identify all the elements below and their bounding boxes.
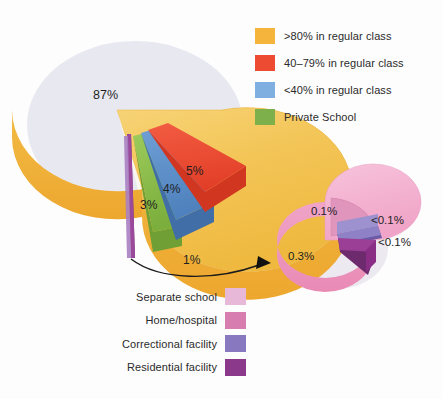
label-detail-lt01-a: <0.1%	[371, 214, 404, 226]
arrow-head-icon	[256, 256, 271, 269]
label-main-87: 87%	[93, 88, 118, 102]
legend-swatch-40to79	[255, 55, 275, 71]
legend-swatch-separate-school	[225, 288, 246, 305]
legend-item-home-hospital[interactable]: Home/hospital	[122, 311, 246, 330]
label-detail-01: 0.1%	[311, 205, 337, 217]
label-detail-lt01-b: <0.1%	[378, 236, 411, 248]
legend-main: >80% in regular class 40–79% in regular …	[255, 26, 404, 134]
chart-canvas: 87% 5% 4% 3% 1% 0.1% 0.3% <0.1% <0.1% >8…	[0, 0, 443, 399]
legend-label-40to79: 40–79% in regular class	[284, 57, 404, 69]
label-main-4: 4%	[163, 182, 180, 196]
legend-item-correctional-facility[interactable]: Correctional facility	[122, 334, 246, 353]
label-detail-03: 0.3%	[288, 250, 314, 262]
legend-item-residential-facility[interactable]: Residential facility	[122, 358, 246, 377]
legend-item-40to79[interactable]: 40–79% in regular class	[255, 53, 404, 73]
legend-label-over80: >80% in regular class	[284, 30, 392, 42]
legend-item-private-school[interactable]: Private School	[255, 107, 404, 127]
legend-item-under40[interactable]: <40% in regular class	[255, 80, 404, 100]
legend-item-over80[interactable]: >80% in regular class	[255, 26, 404, 46]
legend-swatch-private-school	[255, 109, 275, 125]
legend-swatch-under40	[255, 82, 275, 98]
legend-label-under40: <40% in regular class	[284, 84, 392, 96]
label-main-3: 3%	[140, 198, 157, 212]
legend-swatch-home-hospital	[225, 312, 246, 329]
legend-label-correctional-facility: Correctional facility	[122, 338, 217, 350]
label-main-5: 5%	[186, 164, 203, 178]
legend-item-separate-school[interactable]: Separate school	[122, 287, 246, 306]
legend-label-home-hospital: Home/hospital	[145, 314, 217, 326]
legend-sub: Separate school Home/hospital Correction…	[122, 287, 246, 381]
legend-label-private-school: Private School	[284, 111, 356, 123]
legend-label-separate-school: Separate school	[136, 291, 217, 303]
legend-swatch-residential-facility	[225, 359, 246, 376]
legend-swatch-correctional-facility	[225, 335, 246, 352]
legend-swatch-over80	[255, 28, 275, 44]
label-callout-1: 1%	[183, 253, 200, 267]
legend-label-residential-facility: Residential facility	[127, 361, 217, 373]
